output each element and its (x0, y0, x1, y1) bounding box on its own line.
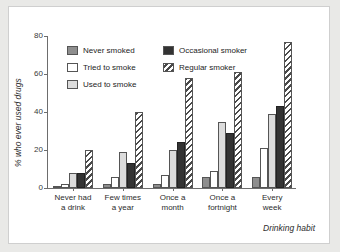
legend-swatch-icon (67, 80, 78, 89)
bar (127, 163, 135, 188)
bar (169, 150, 177, 188)
x-axis-title: Drinking habit (263, 223, 315, 233)
legend-swatch-icon (67, 63, 78, 72)
y-tick-mark (44, 150, 47, 151)
x-tick-mark (123, 188, 124, 191)
bar (260, 148, 268, 188)
legend-item: Used to smoke (67, 80, 163, 89)
bar (53, 186, 61, 188)
y-axis-line (47, 36, 48, 188)
x-tick-mark (222, 188, 223, 191)
bar (185, 78, 193, 188)
y-tick-mark (44, 36, 47, 37)
bar (284, 42, 292, 188)
legend-label: Tried to smoke (83, 63, 136, 72)
x-tick-mark (272, 188, 273, 191)
chart-figure: % who ever used drugs Drinking habit 020… (8, 6, 330, 244)
bar (103, 184, 111, 188)
chart-legend: Never smokedOccasional smokerTried to sm… (67, 42, 277, 93)
bar (276, 106, 284, 188)
x-tick-label: Few times a year (98, 193, 148, 212)
y-tick-mark (44, 188, 47, 189)
bar (69, 173, 77, 188)
legend-swatch-icon (67, 46, 78, 55)
y-tick-mark (44, 112, 47, 113)
legend-label: Occasional smoker (179, 46, 247, 55)
y-tick-label: 0 (39, 184, 43, 192)
y-tick-label: 20 (34, 146, 43, 154)
bar (77, 173, 85, 188)
legend-item: Tried to smoke (67, 63, 163, 72)
legend-swatch-icon (163, 46, 174, 55)
bar (85, 150, 93, 188)
legend-item: Regular smoker (163, 63, 277, 72)
bar (226, 133, 234, 188)
legend-item: Occasional smoker (163, 46, 277, 55)
x-axis-line (47, 188, 296, 189)
bar (177, 142, 185, 188)
y-tick-label: 80 (34, 32, 43, 40)
y-axis-title: % who ever used drugs (13, 153, 23, 167)
y-tick-label: 40 (34, 108, 43, 116)
bar (135, 112, 143, 188)
bar (218, 122, 226, 189)
bar (153, 184, 161, 188)
bar (268, 114, 276, 188)
y-tick-label: 60 (34, 70, 43, 78)
legend-label: Never smoked (83, 46, 135, 55)
legend-label: Regular smoker (179, 63, 235, 72)
x-tick-mark (173, 188, 174, 191)
bar (111, 177, 119, 188)
x-tick-label: Once a month (148, 193, 198, 212)
x-tick-mark (73, 188, 74, 191)
legend-item: Never smoked (67, 46, 163, 55)
x-tick-label: Once a fortnight (198, 193, 248, 212)
x-tick-label: Never had a drink (48, 193, 98, 212)
y-tick-mark (44, 74, 47, 75)
legend-label: Used to smoke (83, 80, 136, 89)
bar (210, 171, 218, 188)
x-tick-label: Every week (247, 193, 297, 212)
bar (61, 184, 69, 188)
bar (252, 177, 260, 188)
bar (202, 177, 210, 188)
bar (119, 152, 127, 188)
bar (161, 175, 169, 188)
legend-swatch-icon (163, 63, 174, 72)
